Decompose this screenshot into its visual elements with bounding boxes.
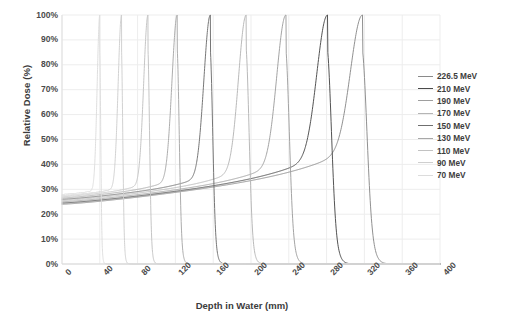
- y-tick-label: 50%: [20, 134, 58, 144]
- legend-label: 90 MeV: [437, 158, 466, 168]
- bragg-peak-chart: Relative Dose (%) Depth in Water (mm) 10…: [0, 0, 521, 324]
- legend-label: 70 MeV: [437, 170, 466, 180]
- y-axis-title: Relative Dose (%): [21, 36, 32, 176]
- legend-item[interactable]: 130 MeV: [418, 132, 518, 144]
- y-tick-label: 0%: [20, 259, 58, 269]
- legend-label: 150 MeV: [437, 121, 470, 131]
- legend-item[interactable]: 70 MeV: [418, 169, 518, 181]
- y-tick-label: 20%: [20, 209, 58, 219]
- x-axis-title: Depth in Water (mm): [62, 300, 422, 311]
- y-tick-label: 100%: [20, 10, 58, 20]
- y-tick-label: 80%: [20, 59, 58, 69]
- legend-item[interactable]: 226.5 MeV: [418, 70, 518, 82]
- legend-line-icon: [418, 113, 433, 114]
- legend-label: 210 MeV: [437, 84, 470, 94]
- legend-item[interactable]: 170 MeV: [418, 107, 518, 119]
- legend-line-icon: [418, 76, 433, 77]
- legend-label: 226.5 MeV: [437, 71, 477, 81]
- legend-label: 110 MeV: [437, 146, 470, 156]
- y-tick-label: 90%: [20, 34, 58, 44]
- legend-item[interactable]: 90 MeV: [418, 157, 518, 169]
- legend-label: 190 MeV: [437, 96, 470, 106]
- legend-item[interactable]: 190 MeV: [418, 95, 518, 107]
- legend-line-icon: [418, 138, 433, 139]
- legend-label: 130 MeV: [437, 133, 470, 143]
- y-tick-label: 70%: [20, 84, 58, 94]
- chart-legend: 226.5 MeV210 MeV190 MeV170 MeV150 MeV130…: [418, 70, 518, 182]
- legend-item[interactable]: 210 MeV: [418, 82, 518, 94]
- y-tick-label: 40%: [20, 159, 58, 169]
- legend-line-icon: [418, 125, 433, 126]
- legend-line-icon: [418, 88, 433, 89]
- legend-line-icon: [418, 162, 433, 163]
- legend-line-icon: [418, 100, 433, 101]
- legend-item[interactable]: 110 MeV: [418, 144, 518, 156]
- gridlines: [62, 15, 440, 264]
- legend-line-icon: [418, 175, 433, 176]
- legend-label: 170 MeV: [437, 108, 470, 118]
- y-tick-label: 10%: [20, 234, 58, 244]
- legend-line-icon: [418, 150, 433, 151]
- y-tick-label: 30%: [20, 184, 58, 194]
- legend-item[interactable]: 150 MeV: [418, 120, 518, 132]
- y-tick-label: 60%: [20, 109, 58, 119]
